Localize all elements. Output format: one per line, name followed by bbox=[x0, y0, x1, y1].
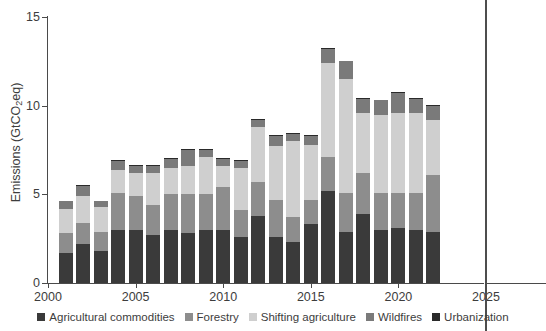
bar-segment bbox=[216, 230, 230, 283]
bar-segment bbox=[129, 196, 143, 230]
legend-swatch-icon bbox=[432, 313, 440, 321]
bar-segment bbox=[94, 207, 108, 232]
bar-segment bbox=[286, 217, 300, 242]
bar-stack[interactable] bbox=[409, 98, 423, 283]
bar-segment bbox=[164, 194, 178, 229]
x-axis-tick bbox=[48, 283, 49, 288]
bar-segment bbox=[111, 230, 125, 283]
bar-stack[interactable] bbox=[391, 92, 405, 283]
bar-segment bbox=[146, 235, 160, 283]
chart-figure: 051015 Emissions (GtCO2eq) 2000200520102… bbox=[0, 0, 546, 331]
legend-item[interactable]: Urbanization bbox=[432, 311, 509, 323]
bar-stack[interactable] bbox=[181, 149, 195, 283]
bar-segment bbox=[321, 157, 335, 191]
x-axis-tick bbox=[311, 283, 312, 288]
bar-segment bbox=[76, 223, 90, 244]
bar-segment bbox=[199, 230, 213, 283]
bar-stack[interactable] bbox=[304, 135, 318, 283]
bar-segment bbox=[59, 233, 73, 253]
bar-segment bbox=[409, 113, 423, 193]
bar-stack[interactable] bbox=[269, 135, 283, 283]
bar-segment bbox=[251, 216, 265, 283]
bar-segment bbox=[374, 100, 388, 114]
bar-stack[interactable] bbox=[94, 201, 108, 283]
bar-segment bbox=[59, 253, 73, 283]
bar-segment bbox=[426, 120, 440, 175]
bar-segment bbox=[374, 115, 388, 193]
bar-stack[interactable] bbox=[339, 61, 353, 284]
chart-legend: Agricultural commoditiesForestryShifting… bbox=[0, 311, 546, 323]
legend-label: Forestry bbox=[197, 311, 239, 323]
bar-segment bbox=[426, 232, 440, 283]
legend-item[interactable]: Agricultural commodities bbox=[37, 311, 174, 323]
bar-segment bbox=[199, 157, 213, 194]
x-axis-tick-label: 2000 bbox=[34, 290, 62, 304]
bar-segment bbox=[234, 168, 248, 211]
bar-stack[interactable] bbox=[286, 133, 300, 283]
legend-label: Wildfires bbox=[378, 311, 422, 323]
x-axis-tick bbox=[136, 283, 137, 288]
bar-stack[interactable] bbox=[76, 185, 90, 283]
bar-segment bbox=[339, 193, 353, 232]
y-axis-title-text: Emissions (GtCO2eq) bbox=[9, 83, 23, 203]
bar-stack[interactable] bbox=[111, 160, 125, 283]
bar-segment bbox=[356, 113, 370, 173]
bar-segment bbox=[129, 173, 143, 196]
bar-segment bbox=[216, 166, 230, 187]
bar-stack[interactable] bbox=[374, 100, 388, 283]
bar-segment bbox=[339, 61, 353, 79]
bar-segment bbox=[409, 99, 423, 113]
bar-segment bbox=[216, 159, 230, 166]
legend-item[interactable]: Wildfires bbox=[366, 311, 422, 323]
bar-segment bbox=[59, 201, 73, 208]
bar-segment bbox=[111, 170, 125, 193]
x-axis-line bbox=[47, 283, 484, 284]
x-axis-tick-label: 2020 bbox=[384, 290, 412, 304]
bar-stack[interactable] bbox=[146, 165, 160, 283]
page-gutter-line bbox=[485, 0, 487, 331]
x-axis-line-right bbox=[487, 283, 546, 284]
bar-stack[interactable] bbox=[251, 119, 265, 283]
bar-segment bbox=[321, 49, 335, 63]
bar-stack[interactable] bbox=[321, 48, 335, 283]
bar-segment bbox=[339, 79, 353, 192]
bar-segment bbox=[286, 141, 300, 217]
bar-segment bbox=[391, 113, 405, 193]
bar-segment bbox=[94, 251, 108, 283]
x-axis-tick bbox=[223, 283, 224, 288]
y-axis-tick-label: 5 bbox=[33, 187, 40, 201]
bar-segment bbox=[269, 136, 283, 147]
bar-segment bbox=[181, 150, 195, 166]
legend-item[interactable]: Forestry bbox=[185, 311, 239, 323]
x-axis-tick-label: 2015 bbox=[297, 290, 325, 304]
bar-segment bbox=[269, 146, 283, 199]
bar-stack[interactable] bbox=[356, 98, 370, 283]
bar-stack[interactable] bbox=[59, 201, 73, 283]
bar-stack[interactable] bbox=[426, 105, 440, 283]
legend-swatch-icon bbox=[185, 313, 193, 321]
bar-segment bbox=[304, 224, 318, 283]
bar-stack[interactable] bbox=[129, 165, 143, 283]
legend-item[interactable]: Shifting agriculture bbox=[249, 311, 356, 323]
bar-segment bbox=[146, 205, 160, 235]
bar-segment bbox=[304, 200, 318, 225]
y-axis-tick-label: 0 bbox=[33, 276, 40, 290]
bar-segment bbox=[59, 209, 73, 234]
legend-label: Urbanization bbox=[444, 311, 509, 323]
bar-segment bbox=[181, 233, 195, 283]
bar-segment bbox=[129, 166, 143, 173]
bar-segment bbox=[269, 237, 283, 283]
bar-segment bbox=[164, 230, 178, 283]
bar-stack[interactable] bbox=[164, 158, 178, 283]
bar-stack[interactable] bbox=[199, 149, 213, 283]
x-axis-tick bbox=[398, 283, 399, 288]
bar-segment bbox=[374, 193, 388, 230]
bar-segment bbox=[286, 242, 300, 283]
y-axis-tick bbox=[42, 17, 47, 18]
bar-stack[interactable] bbox=[216, 158, 230, 283]
y-axis-tick bbox=[42, 283, 47, 284]
y-axis-tick bbox=[42, 106, 47, 107]
bar-stack[interactable] bbox=[234, 160, 248, 283]
bar-segment bbox=[426, 175, 440, 232]
bar-segment bbox=[409, 193, 423, 230]
